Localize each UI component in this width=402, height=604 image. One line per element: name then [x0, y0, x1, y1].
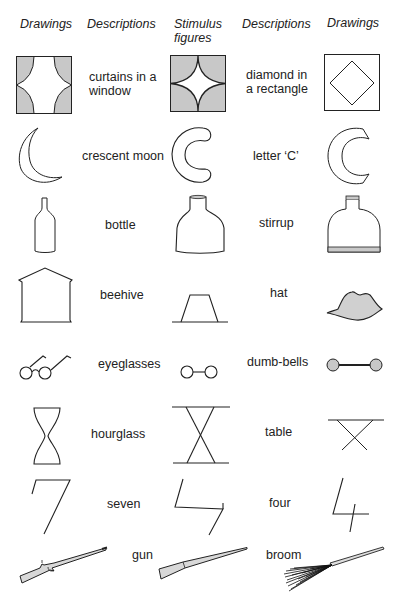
header-stimulus-line2: figures [174, 31, 222, 45]
rod-icon [157, 547, 249, 583]
crossed-lines-bars-icon [171, 405, 231, 465]
hat-icon [326, 289, 384, 323]
description-beehive: beehive [100, 288, 144, 302]
header-descriptions-left: Descriptions [87, 17, 156, 31]
bottle-icon [33, 196, 57, 254]
beehive-icon [17, 266, 75, 324]
description-curtains-in-a-window: curtains in a window [89, 70, 156, 98]
description-dumb-bells: dumb-bells [247, 355, 308, 369]
crescent-moon-icon [16, 125, 66, 185]
header-stimulus-figures: Stimulus figures [174, 17, 222, 45]
description-letter-c: letter ‘C’ [253, 149, 299, 163]
curved-star-square-icon [170, 55, 226, 112]
c-shape-icon [170, 126, 214, 184]
jar-shape-icon [174, 194, 226, 254]
trapezoid-icon [171, 293, 229, 325]
dumbbell-icon [326, 357, 384, 373]
four-icon [331, 476, 371, 536]
diamond-rectangle-icon [324, 54, 380, 111]
letter-c-icon [325, 127, 371, 185]
broom-icon [282, 545, 386, 595]
header-stimulus-line1: Stimulus [174, 17, 222, 31]
description-bottle: bottle [105, 218, 136, 232]
description-four: four [269, 496, 291, 510]
header-descriptions-right: Descriptions [242, 17, 311, 31]
header-drawings-right: Drawings [327, 16, 379, 30]
description-gun: gun [132, 548, 153, 562]
two-circles-line-icon [180, 364, 220, 380]
description-line: diamond in [246, 68, 308, 82]
eyeglasses-icon [18, 353, 74, 381]
table-icon [327, 418, 385, 452]
description-hat: hat [270, 286, 287, 300]
description-stirrup: stirrup [259, 216, 294, 230]
description-line: curtains in a [89, 70, 156, 84]
header-drawings-left: Drawings [20, 17, 72, 31]
seven-icon [30, 478, 72, 536]
hourglass-icon [32, 407, 62, 465]
description-eyeglasses: eyeglasses [98, 357, 161, 371]
description-line: window [89, 84, 156, 98]
description-crescent-moon: crescent moon [82, 149, 164, 163]
description-seven: seven [107, 497, 140, 511]
description-diamond-in-a-rectangle: diamond in a rectangle [246, 68, 308, 96]
description-table: table [265, 425, 292, 439]
description-hourglass: hourglass [91, 427, 145, 441]
description-line: a rectangle [246, 82, 308, 96]
curtains-window-icon [16, 56, 72, 114]
stirrup-icon [326, 194, 382, 254]
zigzag-icon [173, 477, 227, 537]
gun-icon [18, 546, 110, 586]
